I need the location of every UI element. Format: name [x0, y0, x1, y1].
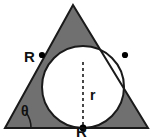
left-tangent-point-marker: [39, 52, 45, 58]
radius-label-r: r: [90, 88, 95, 102]
right-tangent-point-marker: [122, 52, 128, 58]
side-length-label-R-bottom: R: [76, 124, 87, 137]
geometry-figure: R R r θ Gráficos: CDAE: [0, 0, 161, 137]
side-length-label-R-left: R: [24, 49, 35, 64]
angle-label-theta: θ: [21, 104, 29, 118]
